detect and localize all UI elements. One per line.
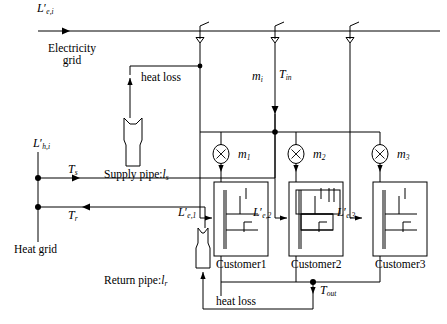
supply-pipe-component-icon	[124, 118, 142, 166]
customer-electric-load-label-2: L′e,2	[253, 206, 271, 219]
transformer-tap-icon-1	[196, 22, 209, 66]
customer-name-3: Customer3	[375, 258, 425, 270]
heat-exchanger-icon-2	[296, 188, 340, 249]
electric-feeder-customer1	[200, 66, 212, 218]
outlet-temperature-label: Tout	[320, 284, 336, 297]
electricity-grid-line1: Electricity	[22, 42, 122, 54]
flow-arrow-icon	[82, 204, 90, 211]
customer-electric-load-label-1: L′e,1	[178, 206, 196, 219]
heat-loss-bottom-label: heat loss	[216, 295, 256, 307]
return-temperature-label: Tr	[68, 209, 78, 222]
heat-distribution-header	[200, 106, 380, 135]
heat-supply-label: L′h,i	[33, 137, 50, 150]
electric-feeder-customer3	[350, 90, 362, 218]
mass-flow-label-2: m2	[313, 148, 325, 161]
mass-flow-label-3: m3	[397, 148, 409, 161]
return-pipe-component-icon	[196, 228, 210, 268]
customer-block-1	[214, 182, 268, 296]
electricity-supply-label: L′e,i	[37, 2, 54, 15]
transformer-tap-icon-3	[346, 22, 359, 90]
pump-circle-x-icon-1	[213, 145, 229, 183]
heat-grid-label: Heat grid	[14, 243, 57, 255]
mass-flow-label-1: m1	[238, 148, 250, 161]
electricity-grid-label: Electricity grid	[22, 42, 122, 66]
total-mass-flow-label: mi	[252, 70, 263, 83]
return-pipe-label: Return pipe:lr	[104, 274, 167, 286]
figure-container: L′e,i Electricity grid heat loss L′h,i T…	[0, 0, 447, 324]
heat-loss-top-label: heat loss	[141, 71, 181, 83]
flow-arrow-icon	[62, 28, 70, 35]
flow-arrow-icon	[272, 106, 279, 114]
heat-grid-bus	[35, 152, 41, 242]
customer-name-2: Customer2	[291, 258, 341, 270]
customer-name-1: Customer1	[216, 258, 266, 270]
heat-exchanger-icon-3	[383, 188, 417, 249]
supply-temperature-label: Ts	[68, 163, 78, 176]
inlet-temperature-label: Tin	[279, 68, 292, 81]
customer-electric-load-label-3: L′e,3	[337, 206, 355, 219]
pump-circle-x-icon-2	[288, 145, 304, 183]
supply-pipe-label: Supply pipe:ls	[104, 168, 169, 180]
electricity-grid-line	[38, 28, 440, 35]
pump-circle-x-icon-3	[372, 145, 388, 183]
electricity-grid-line2: grid	[22, 54, 122, 66]
